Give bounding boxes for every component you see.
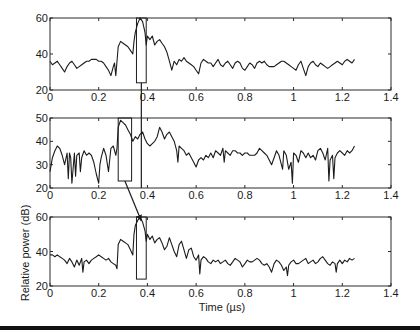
power-curve <box>50 217 355 276</box>
zoom-box <box>136 217 146 279</box>
y-tick-label: 60 <box>36 12 48 24</box>
x-tick-label: 0.6 <box>188 287 203 299</box>
x-tick-label: 0.4 <box>140 189 155 201</box>
x-tick-label: 1.4 <box>383 189 398 201</box>
y-tick-label: 40 <box>36 246 48 258</box>
page-separator-rule <box>0 326 420 330</box>
x-tick-label: 1.2 <box>335 189 350 201</box>
x-tick-label: 1 <box>291 287 297 299</box>
panel-middle: 00.20.40.60.811.21.420304050 <box>36 112 399 201</box>
y-tick-label: 20 <box>36 280 48 292</box>
x-tick-label: 0.8 <box>237 91 252 103</box>
x-tick-label: 1.2 <box>335 287 350 299</box>
power-curve <box>50 18 355 76</box>
y-tick-label: 20 <box>36 84 48 96</box>
x-tick-label: 0.4 <box>140 287 155 299</box>
x-tick-label: 1 <box>291 189 297 201</box>
x-tick-label: 0.8 <box>237 189 252 201</box>
x-tick-label: 1.2 <box>335 91 350 103</box>
y-tick-label: 20 <box>36 182 48 194</box>
y-tick-label: 40 <box>36 48 48 60</box>
y-tick-label: 50 <box>36 112 48 124</box>
x-tick-label: 0.8 <box>237 287 252 299</box>
y-tick-label: 60 <box>36 211 48 223</box>
x-tick-label: 1 <box>291 91 297 103</box>
x-tick-label: 0.2 <box>91 287 106 299</box>
panel-bottom: 00.20.40.60.811.21.4204060 <box>36 211 399 299</box>
arrow-middle-to-bottom <box>125 181 141 221</box>
zoom-box <box>118 118 131 181</box>
x-tick-label: 0.6 <box>188 189 203 201</box>
x-tick-label: 0.6 <box>188 91 203 103</box>
y-axis-label: Relative power (dB) <box>19 205 31 302</box>
power-curve <box>50 120 355 183</box>
x-tick-label: 1.4 <box>383 91 398 103</box>
x-tick-label: 0.4 <box>140 91 155 103</box>
panel-top: 00.20.40.60.811.21.4204060 <box>36 12 399 103</box>
figure: 00.20.40.60.811.21.4204060 00.20.40.60.8… <box>0 0 420 333</box>
x-tick-label: 0.2 <box>91 91 106 103</box>
x-tick-label: 1.4 <box>383 287 398 299</box>
plot-frame <box>50 18 391 90</box>
x-axis-label: Time (µs) <box>199 301 245 313</box>
x-tick-label: 0.2 <box>91 189 106 201</box>
plot-frame <box>50 217 391 286</box>
plot-frame <box>50 118 391 188</box>
y-tick-label: 30 <box>36 159 48 171</box>
zoom-box <box>136 18 146 83</box>
y-tick-label: 40 <box>36 135 48 147</box>
